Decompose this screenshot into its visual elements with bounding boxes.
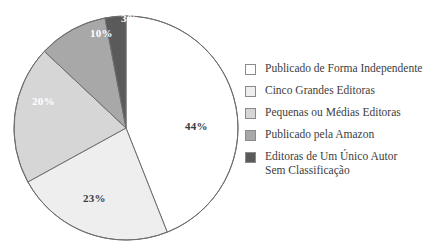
legend-item-label: Publicado pela Amazon bbox=[265, 128, 374, 142]
legend-swatch-icon bbox=[245, 130, 256, 141]
legend-item[interactable]: Cinco Grandes Editoras bbox=[245, 84, 447, 98]
legend-item-label: Publicado de Forma Independente bbox=[265, 62, 422, 76]
legend-item[interactable]: Pequenas ou Médias Editoras bbox=[245, 106, 447, 120]
chart-legend: Publicado de Forma IndependenteCinco Gra… bbox=[245, 62, 447, 186]
legend-item-label: Editoras de Um Único Autor Sem Classific… bbox=[265, 150, 397, 177]
legend-swatch-icon bbox=[245, 64, 256, 75]
pie-slices-group bbox=[14, 16, 238, 240]
legend-swatch-icon bbox=[245, 108, 256, 119]
legend-swatch-icon bbox=[245, 152, 256, 163]
legend-item[interactable]: Publicado de Forma Independente bbox=[245, 62, 447, 76]
pie-chart-figure: 44%23%20%10%3% Publicado de Forma Indepe… bbox=[0, 0, 447, 252]
legend-item[interactable]: Editoras de Um Único Autor Sem Classific… bbox=[245, 150, 447, 177]
legend-item-label: Pequenas ou Médias Editoras bbox=[265, 106, 401, 120]
pie-chart-plot-area: 44%23%20%10%3% bbox=[0, 0, 245, 252]
legend-item-label: Cinco Grandes Editoras bbox=[265, 84, 375, 98]
pie-svg bbox=[0, 0, 245, 252]
legend-item[interactable]: Publicado pela Amazon bbox=[245, 128, 447, 142]
legend-swatch-icon bbox=[245, 86, 256, 97]
